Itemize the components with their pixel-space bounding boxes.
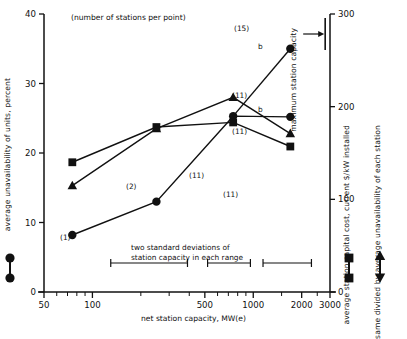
stddev-caption-line-1: two standard deviations of [131,243,230,252]
x-tick-label: 500 [197,300,213,310]
legend-marker-circle-bottom [5,273,14,282]
data-point-square-1 [68,158,76,166]
legend-marker-circle-top [5,253,14,262]
point-label-square-4: (11) [223,190,238,199]
data-point-triangle-1 [68,181,78,190]
x-tick-label: 3000 [319,300,341,310]
series-line-square [72,122,290,162]
x-tick-label: 100 [84,300,100,310]
point-label-circle-3: (11) [232,91,247,100]
x-axis-label: net station capacity, MW(e) [141,314,246,323]
stddev-caption-line-2: station capacity in each range [131,253,243,262]
x-tick-label: 1000 [242,300,264,310]
data-point-square-4 [286,143,294,151]
y-axis-label: average unavailability of units, percent [4,78,12,231]
point-note-b-top: b [258,42,263,51]
y-tick-label: 0 [31,287,36,297]
series-line-circle [72,116,290,235]
x-tick-label: 2000 [291,300,313,310]
x-tick-label: 50 [39,300,50,310]
point-label-circle-1: (1) [60,233,70,242]
y2-axis-label-normalized: same divided by average unavailability o… [374,125,382,339]
y2-axis-label-capital-cost: average station capital cost, current $/… [343,125,351,324]
data-point-square-3 [229,119,237,127]
y-tick-label: 10 [25,218,36,228]
max-capacity-label: maximum station capacity [290,28,298,132]
chart-top-note: (number of stations per point) [71,13,186,22]
max-capacity-arrow-head [318,31,324,37]
point-label-triangle-4: (11) [232,127,247,136]
point-label-square-3: (11) [189,171,204,180]
data-point-circle-2 [152,197,160,205]
y2-tick-label: 300 [338,9,354,19]
y-tick-label: 30 [25,79,36,89]
y-tick-label: 40 [25,9,36,19]
point-label-circle-top: (15) [234,24,249,33]
y2-tick-label: 200 [338,102,354,112]
y-tick-label: 20 [25,148,36,158]
point-label-circle-2: (2) [126,182,136,191]
point-note-b-mid: b [258,105,263,114]
